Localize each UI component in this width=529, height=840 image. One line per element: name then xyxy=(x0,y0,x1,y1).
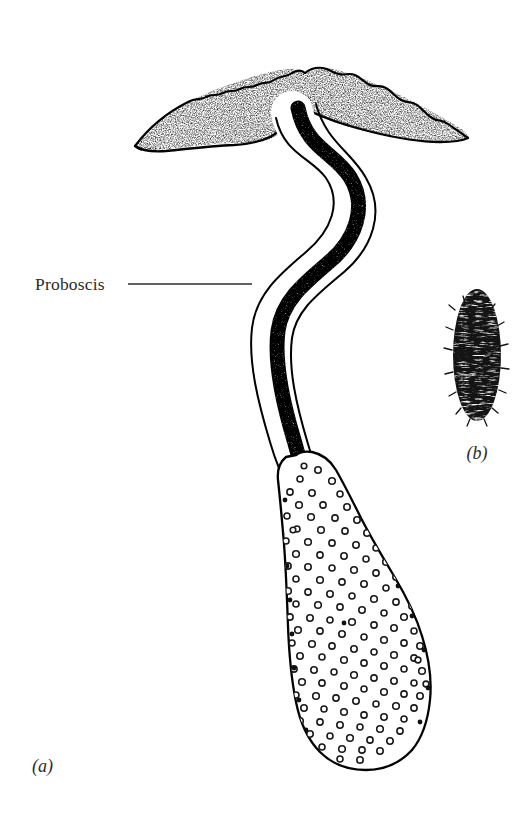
panel-a-label: (a) xyxy=(32,756,53,777)
bristled-ovoid-specimen xyxy=(444,289,509,426)
panel-b-label: (b) xyxy=(467,443,488,464)
proboscis-annotation: Proboscis xyxy=(35,274,252,294)
figure-illustration: Proboscis (a) (b) xyxy=(0,0,529,840)
proboscis-label: Proboscis xyxy=(35,274,105,294)
figure-canvas: Proboscis (a) (b) xyxy=(0,0,529,840)
panel-a-illustration: Proboscis (a) xyxy=(32,55,485,777)
panel-b-illustration: (b) xyxy=(444,289,509,464)
trunk-body xyxy=(278,452,431,770)
